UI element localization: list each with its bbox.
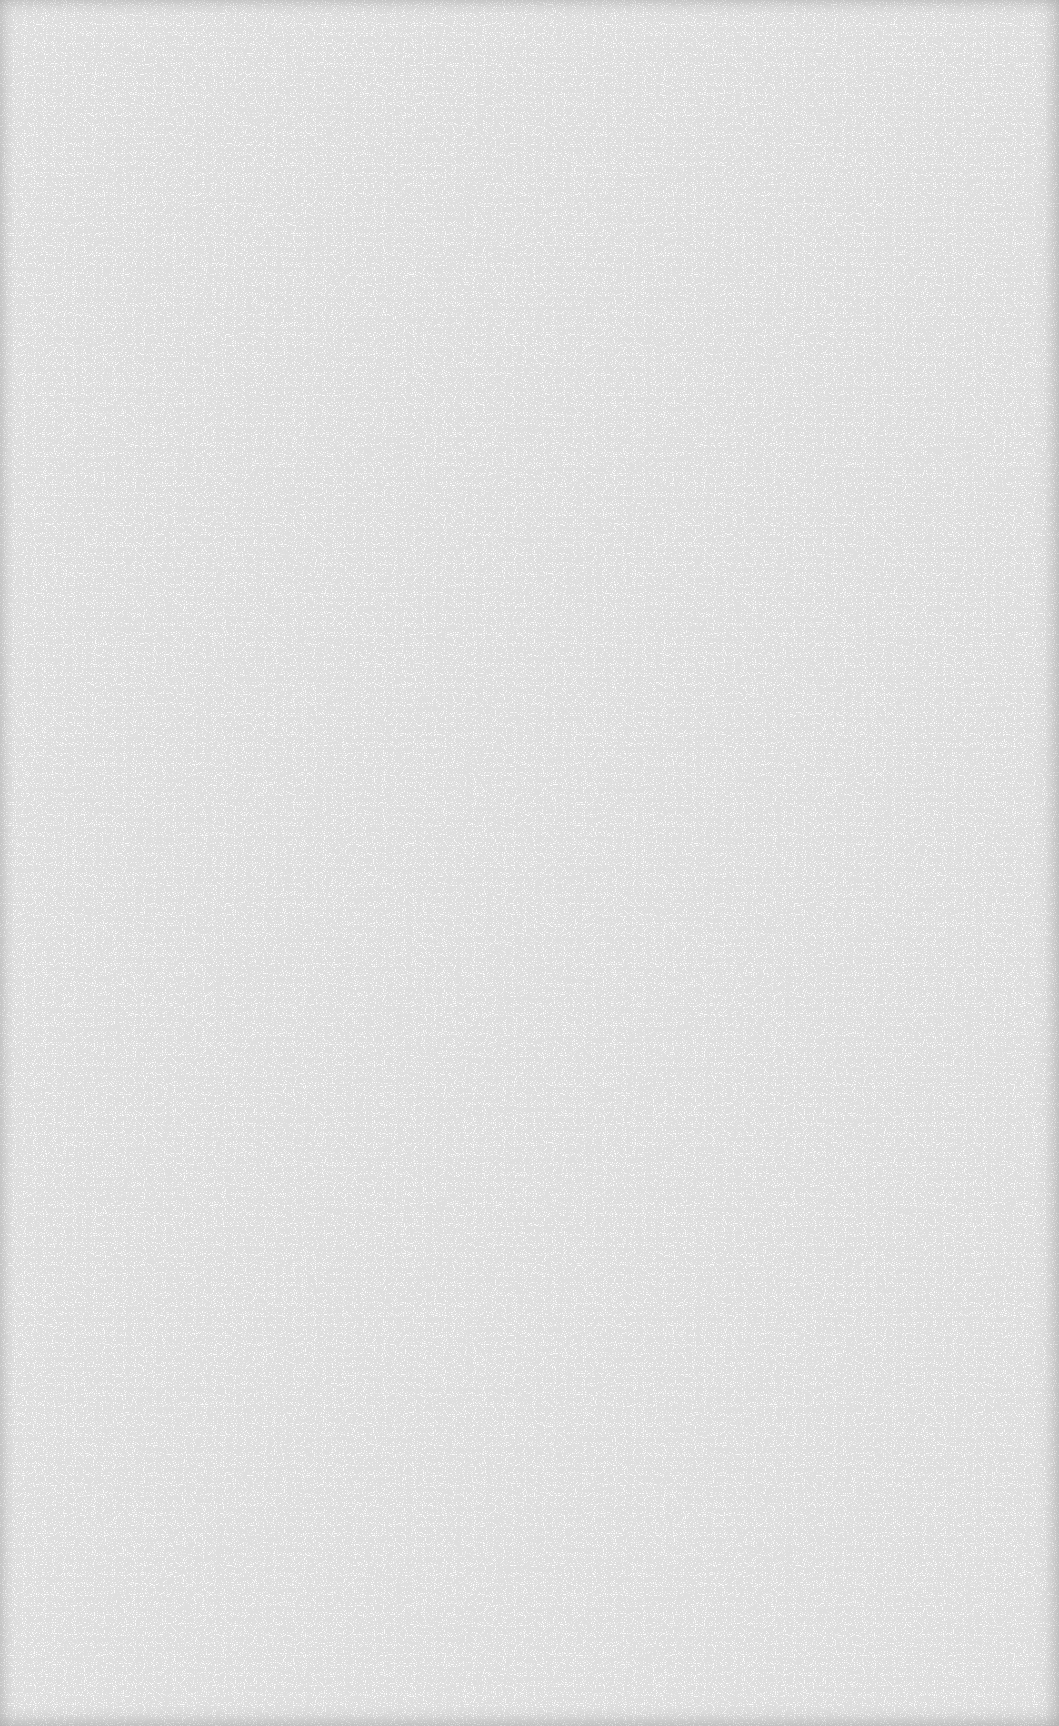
page-content-area (0, 0, 1059, 1726)
blank-document-page (0, 0, 1059, 1726)
